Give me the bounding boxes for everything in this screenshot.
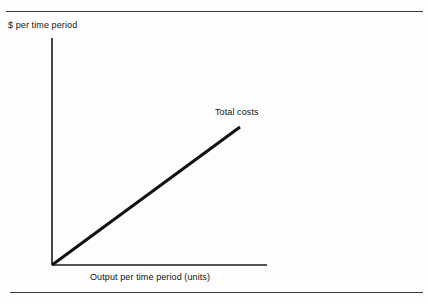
- total-costs-line: [52, 127, 240, 265]
- figure-container: $ per time period Total costs Output per…: [0, 0, 428, 304]
- page-rule-bottom: [10, 292, 423, 293]
- total-costs-annotation: Total costs: [215, 107, 259, 117]
- plot-area: [0, 0, 428, 304]
- x-axis-label: Output per time period (units): [90, 272, 210, 282]
